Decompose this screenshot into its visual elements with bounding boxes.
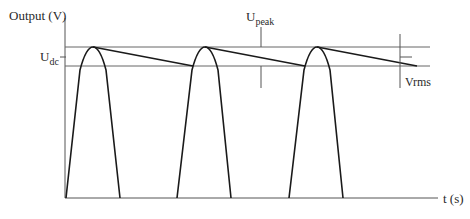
decay-2	[205, 47, 305, 66]
decay-1	[93, 47, 193, 66]
pulse-2	[177, 47, 231, 198]
vrms-label: Vrms	[405, 76, 431, 88]
pulse-3	[289, 47, 343, 198]
rectifier-diagram	[0, 0, 470, 219]
pulse-1	[66, 47, 120, 198]
x-axis-label: t (s)	[443, 192, 464, 205]
y-axis-label: Output (V)	[9, 9, 66, 22]
udc-label: Udc	[40, 50, 59, 63]
upeak-label: Upeak	[246, 10, 274, 23]
